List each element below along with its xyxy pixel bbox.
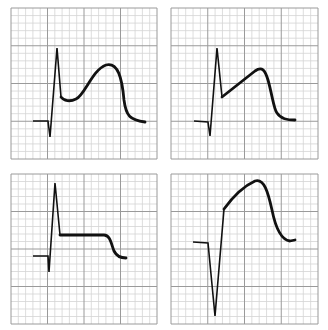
grid-paper — [11, 174, 157, 324]
grid-paper — [11, 8, 157, 159]
ecg-panel-bottom-left: Panel 3: R wave with flat horizontal ST … — [11, 174, 157, 324]
ecg-panel-top-right: Panel 2: R wave with straight upsloping … — [171, 8, 318, 159]
panels-container: Panel 1: R wave with concave-up ST eleva… — [11, 8, 318, 324]
ecg-panel-top-left: Panel 1: R wave with concave-up ST eleva… — [11, 8, 157, 159]
qrs-complex-trace — [193, 209, 224, 316]
st-segment-trace — [60, 235, 126, 258]
ecg-panel-bottom-right: Panel 4: Deep Q/S wave with tombstone ST… — [171, 174, 318, 324]
ecg-figure: Panel 1: R wave with concave-up ST eleva… — [0, 0, 328, 330]
st-segment-trace — [222, 69, 295, 120]
grid-paper — [171, 8, 318, 159]
grid-paper — [171, 174, 318, 324]
